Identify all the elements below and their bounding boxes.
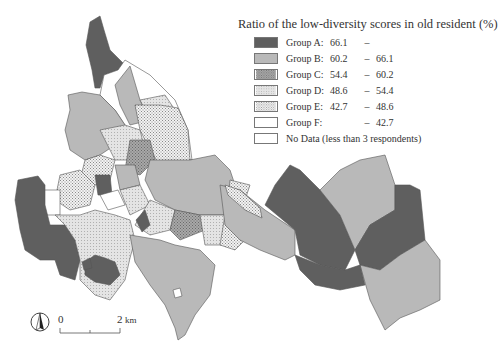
legend-title: Ratio of the low-diversity scores in old… <box>238 17 498 32</box>
legend-low: 66.1 <box>330 37 358 48</box>
legend-label: Group A: <box>286 37 330 48</box>
legend-dash: – <box>358 69 376 80</box>
legend-row-group-e: Group E: 42.7 – 48.6 <box>254 100 406 113</box>
legend-dash: – <box>358 85 376 96</box>
legend-label: Group C: <box>286 69 330 80</box>
scale-start: 0 <box>58 313 64 325</box>
west-district <box>15 16 250 340</box>
swatch-group-f <box>254 117 278 128</box>
swatch-group-b <box>254 53 278 64</box>
legend-label: Group D: <box>286 85 330 96</box>
legend-row-group-b: Group B: 60.2 – 66.1 <box>254 52 406 65</box>
swatch-group-d <box>254 85 278 96</box>
legend-dash: – <box>358 53 376 64</box>
legend-row-group-d: Group D: 48.6 – 54.4 <box>254 84 406 97</box>
swatch-group-e <box>254 101 278 112</box>
legend-dash: – <box>358 37 376 48</box>
legend-label: Group B: <box>286 53 330 64</box>
scale-unit: km <box>125 315 137 325</box>
legend-row-group-f: Group F: – 42.7 <box>254 116 406 129</box>
swatch-group-a <box>254 37 278 48</box>
legend-high: 66.1 <box>376 53 406 64</box>
legend-high: 42.7 <box>376 117 406 128</box>
legend-low: 42.7 <box>330 101 358 112</box>
legend-high: 60.2 <box>376 69 406 80</box>
legend-dash: – <box>358 101 376 112</box>
legend-low: 60.2 <box>330 53 358 64</box>
scale-bar <box>60 328 120 333</box>
legend-label: Group E: <box>286 101 330 112</box>
legend-label: No Data (less than 3 respondents) <box>286 133 421 144</box>
region-south-peninsula <box>130 235 215 340</box>
legend-high: 48.6 <box>376 101 406 112</box>
legend-row-group-c: Group C: 54.4 – 60.2 <box>254 68 406 81</box>
legend-high: 54.4 <box>376 85 406 96</box>
legend-low: 48.6 <box>330 85 358 96</box>
legend-low: 54.4 <box>330 69 358 80</box>
scale-end: 2 <box>117 313 123 325</box>
swatch-no-data <box>254 133 278 144</box>
legend-row-no-data: No Data (less than 3 respondents) <box>254 132 421 145</box>
swatch-group-c <box>254 69 278 80</box>
legend-dash: – <box>358 117 376 128</box>
east-district <box>220 155 440 330</box>
legend-row-group-a: Group A: 66.1 – <box>254 36 406 49</box>
north-arrow-icon <box>31 313 49 331</box>
legend-label: Group F: <box>286 117 330 128</box>
